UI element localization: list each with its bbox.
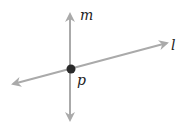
label-m: m [80, 7, 93, 23]
lines-intersection-diagram: m l p [0, 0, 189, 130]
line-l [13, 43, 167, 84]
label-p: p [77, 72, 86, 88]
label-l: l [171, 37, 175, 53]
point-p [67, 65, 76, 74]
